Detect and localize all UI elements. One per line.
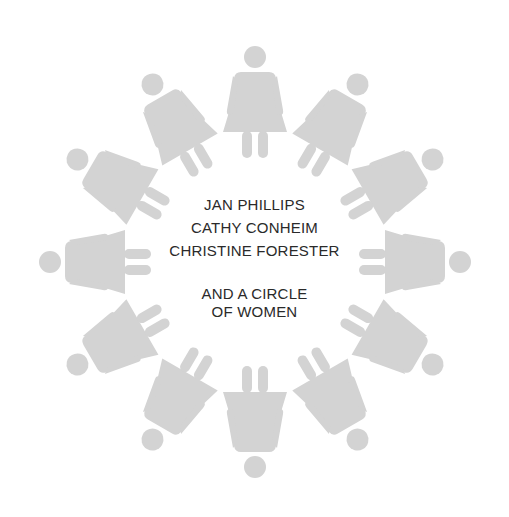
tagline-line-1: AND A CIRCLE xyxy=(0,285,509,303)
tagline-line-2: OF WOMEN xyxy=(0,303,509,321)
author-name: JAN PHILLIPS xyxy=(0,197,509,212)
woman-figure-icon xyxy=(223,46,287,158)
woman-figure-icon xyxy=(223,366,287,478)
author-name: CHRISTINE FORESTER xyxy=(0,243,509,258)
author-name: CATHY CONHEIM xyxy=(0,220,509,235)
